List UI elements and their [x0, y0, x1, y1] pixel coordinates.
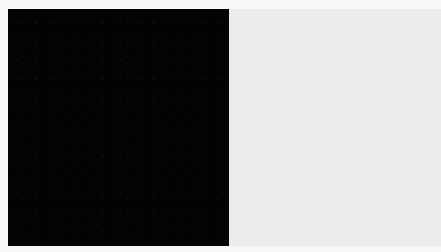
light-block — [229, 9, 441, 246]
dark-block — [8, 9, 229, 246]
image-canvas: Two adjacent flat color blocks: a black … — [0, 0, 441, 252]
